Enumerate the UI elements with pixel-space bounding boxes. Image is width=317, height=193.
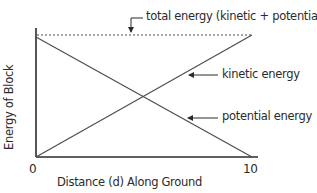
- total-energy-pointer-icon: [131, 18, 143, 32]
- x-tick-10: 10: [243, 163, 258, 175]
- energy-diagram: [0, 0, 317, 193]
- x-axis-label: Distance (d) Along Ground: [57, 177, 202, 189]
- total-energy-label: total energy (kinetic + potential): [146, 11, 317, 23]
- potential-energy-label: potential energy: [222, 111, 312, 123]
- y-axis-label: Energy of Block: [4, 65, 16, 150]
- x-tick-0: 0: [29, 163, 36, 175]
- kinetic-energy-label: kinetic energy: [222, 69, 300, 81]
